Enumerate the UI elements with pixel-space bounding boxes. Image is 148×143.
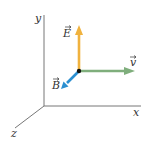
velocity-label: v	[130, 56, 137, 69]
em-wave-diagram: y x z E v B	[0, 0, 148, 143]
b-field-label: B	[51, 79, 60, 92]
e-field-vector	[75, 25, 83, 71]
origin-point	[77, 69, 81, 73]
b-field-vector	[61, 71, 79, 89]
y-axis-label: y	[34, 12, 42, 25]
velocity-vector	[79, 67, 135, 75]
x-axis-label: x	[133, 106, 140, 119]
z-axis	[15, 106, 44, 128]
z-axis-label: z	[10, 127, 17, 140]
e-field-label: E	[62, 27, 71, 40]
e-arrowhead	[75, 25, 83, 35]
